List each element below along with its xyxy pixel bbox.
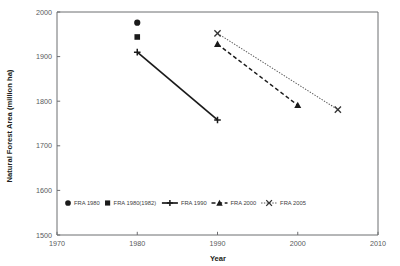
y-tick-label: 1900 — [36, 52, 52, 61]
series-line — [218, 44, 298, 105]
marker-circle — [65, 200, 71, 206]
legend-item-label: FRA 1990 — [181, 200, 207, 206]
series-1 — [134, 20, 140, 26]
y-tick-label: 1600 — [36, 186, 52, 195]
legend-item-3: FRA 1990 — [162, 200, 207, 206]
series-line — [137, 52, 217, 120]
marker-square — [105, 200, 110, 205]
series-5 — [214, 30, 341, 112]
x-axis-tick-labels: 19701980199020002010 — [49, 239, 386, 248]
y-tick-label: 1500 — [36, 231, 52, 240]
series-2 — [134, 34, 140, 40]
x-tick-label: 2000 — [290, 239, 306, 248]
marker-triangle — [294, 102, 301, 108]
y-tick-label: 2000 — [36, 8, 52, 17]
legend-item-1: FRA 1980 — [65, 200, 100, 206]
x-tick-label: 1990 — [210, 239, 226, 248]
marker-x — [335, 107, 341, 113]
natural-forest-area-line-chart: 19701980199020002010 1500160017001800190… — [0, 0, 400, 266]
legend-item-label: FRA 2000 — [231, 200, 257, 206]
series-layer — [134, 20, 341, 124]
x-tick-label: 2010 — [370, 239, 386, 248]
marker-plus — [167, 200, 173, 206]
marker-x — [214, 30, 220, 36]
marker-triangle — [214, 41, 221, 47]
marker-circle — [134, 20, 140, 26]
marker-square — [134, 34, 140, 40]
series-4 — [214, 41, 301, 108]
chart-figure: 19701980199020002010 1500160017001800190… — [0, 0, 400, 266]
legend-item-4: FRA 2000 — [212, 200, 257, 206]
series-3 — [134, 49, 221, 123]
y-axis-tick-labels: 150016001700180019002000 — [36, 8, 52, 240]
x-tick-label: 1980 — [129, 239, 145, 248]
legend-item-label: FRA 1980 — [74, 200, 100, 206]
legend-item-label: FRA 2005 — [280, 200, 306, 206]
series-line — [218, 33, 338, 109]
x-tick-label: 1970 — [49, 239, 65, 248]
chart-legend: FRA 1980FRA 1980(1982)FRA 1990FRA 2000FR… — [65, 200, 306, 206]
y-tick-label: 1800 — [36, 97, 52, 106]
y-axis-title: Natural Forest Area (million ha) — [5, 69, 14, 182]
legend-item-label: FRA 1980(1982) — [114, 200, 157, 206]
legend-item-5: FRA 2005 — [261, 200, 306, 206]
x-axis-title: Year — [210, 254, 226, 263]
y-tick-label: 1700 — [36, 141, 52, 150]
legend-item-2: FRA 1980(1982) — [105, 200, 156, 206]
